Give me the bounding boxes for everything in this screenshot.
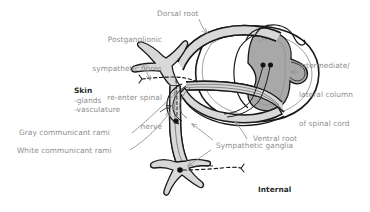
label-intermediate-lateral-column: Intermediate/ lateral column of spinal c… xyxy=(299,42,369,148)
label-internal-organs: Internal organs/vessels xyxy=(258,166,348,212)
label-skin-item-glands: -glands xyxy=(74,96,120,106)
anatomy-diagram-figure: Postganglionic sympathetic fibres re-ent… xyxy=(0,0,370,212)
neuron-cell-body-1 xyxy=(261,63,266,68)
label-sympathetic-ganglia: Sympathetic ganglia xyxy=(216,141,293,151)
label-skin-group: Skin -glands -vasculature xyxy=(74,86,120,115)
label-internal-organs-line-1: Internal xyxy=(258,185,348,195)
lower-ganglion-body xyxy=(150,160,210,196)
neuron-cell-body-2 xyxy=(268,63,273,68)
leader-dorsal-root xyxy=(199,19,207,33)
organs-terminal-fork xyxy=(241,164,244,172)
ganglion-neuron-lower xyxy=(177,167,183,173)
label-intermediate-line-2: lateral column xyxy=(299,90,369,100)
label-intermediate-line-1: Intermediate/ xyxy=(299,61,369,71)
label-white-communicant-rami: White communicant rami xyxy=(17,146,112,156)
label-gray-communicant-rami: Gray communicant rami xyxy=(19,128,110,138)
leader-sympathetic-ganglia-upper xyxy=(192,124,213,140)
leader-ventral-root xyxy=(235,122,247,139)
label-skin-item-vasculature: -vasculature xyxy=(74,105,120,115)
label-postganglionic-line-1: Postganglionic xyxy=(58,35,162,45)
lower-sympathetic-ganglion xyxy=(150,160,210,196)
label-dorsal-root: Dorsal root xyxy=(157,9,198,19)
label-intermediate-line-3: of spinal cord xyxy=(299,119,369,129)
label-skin-heading: Skin xyxy=(74,86,120,96)
label-postganglionic-line-2: sympathetic fibres xyxy=(58,64,162,74)
